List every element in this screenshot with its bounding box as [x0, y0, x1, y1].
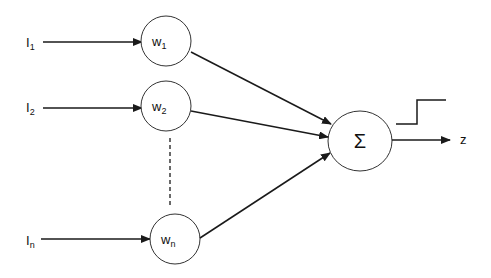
input-label-1: I1: [26, 35, 35, 52]
output-label: z: [460, 132, 467, 147]
connection-arrow-1: [191, 52, 331, 124]
input-label-2: I2: [26, 100, 35, 117]
perceptron-diagram: I1 I2 In w1 w2 wn Σ z: [0, 0, 491, 278]
connection-arrow-n: [200, 153, 330, 238]
input-label-n: In: [26, 233, 35, 250]
summation-symbol: Σ: [354, 130, 366, 152]
connection-arrow-2: [191, 111, 328, 137]
step-function-icon: [396, 100, 446, 124]
